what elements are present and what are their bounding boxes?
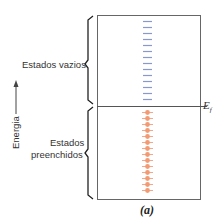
filled-states-label-line1: Estados xyxy=(50,137,84,148)
fermi-subscript: f xyxy=(210,106,212,114)
filled-states-brace xyxy=(85,107,93,199)
fermi-symbol: E xyxy=(203,99,210,111)
empty-states-dashes xyxy=(143,22,152,100)
empty-states-label: Estados vazios xyxy=(22,59,86,70)
filled-states-dots xyxy=(142,110,153,193)
fermi-level-label: Ef xyxy=(203,99,212,114)
energy-axis-label: Energia xyxy=(10,116,21,149)
energy-arrow-icon xyxy=(14,80,19,114)
figure-caption: (a) xyxy=(140,203,154,218)
filled-states-label-line2: preenchidos xyxy=(31,149,83,160)
empty-states-brace xyxy=(85,16,93,104)
band-diagram xyxy=(0,0,223,222)
